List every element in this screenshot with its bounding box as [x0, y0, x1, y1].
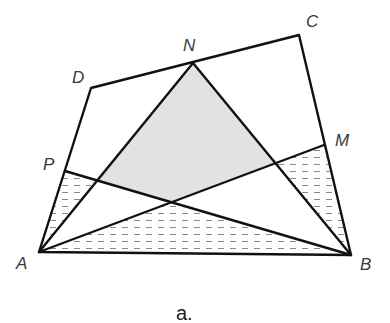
label-b: B: [360, 255, 371, 274]
label-m: M: [335, 131, 350, 150]
figure-caption: a.: [176, 302, 193, 323]
label-c: C: [306, 12, 319, 31]
label-p: P: [43, 155, 55, 174]
label-d: D: [72, 68, 84, 87]
quadrilateral-diagram: A B C D N M P a.: [0, 0, 390, 323]
label-a: A: [15, 254, 27, 273]
label-n: N: [183, 36, 196, 55]
